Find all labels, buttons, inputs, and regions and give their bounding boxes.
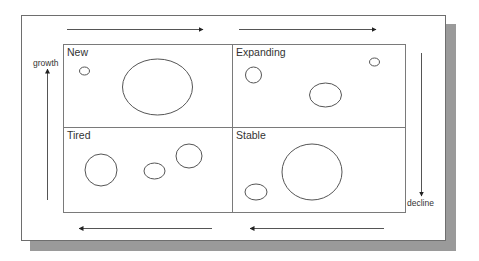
bubble-expanding-2 [370, 58, 380, 66]
bubble-stable-1 [245, 184, 267, 200]
grid-outline [64, 45, 406, 213]
bubble-tired-1 [85, 154, 117, 186]
decline-label: decline [407, 198, 434, 208]
bubble-new-2 [123, 59, 193, 115]
growth-label: growth [33, 58, 59, 68]
matrix-grid [64, 45, 406, 213]
bubble-new-1 [80, 67, 90, 75]
quadrant-label-tired: Tired [67, 129, 91, 141]
quadrant-label-stable: Stable [236, 129, 266, 141]
bubble-stable-2 [282, 144, 342, 200]
quadrant-label-expanding: Expanding [236, 46, 286, 58]
portfolio-diagram: New Expanding Tired Stable growth declin… [0, 0, 479, 261]
bubble-tired-3 [176, 144, 202, 168]
bubble-expanding-3 [310, 83, 342, 107]
bubble-expanding-1 [246, 67, 262, 83]
quadrant-label-new: New [67, 46, 88, 58]
bubble-tired-2 [144, 163, 165, 179]
